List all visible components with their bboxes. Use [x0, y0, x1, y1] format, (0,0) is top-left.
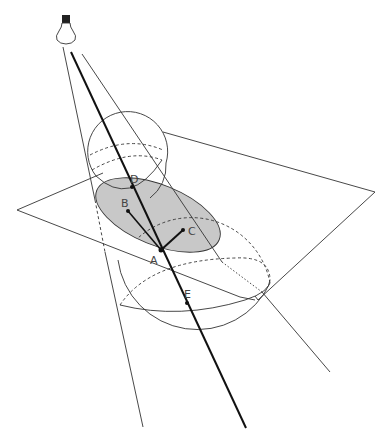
label-e: E — [184, 288, 191, 301]
light-bulb-icon — [56, 15, 75, 44]
label-c: C — [188, 225, 196, 238]
label-b: B — [121, 197, 129, 210]
point-e — [185, 301, 189, 305]
section-ellipse — [86, 162, 231, 267]
point-a — [159, 248, 164, 253]
label-d: D — [130, 173, 138, 186]
label-a: A — [150, 254, 158, 267]
dandelin-spheres-diagram: D B C A E — [0, 0, 387, 440]
point-c — [181, 228, 185, 232]
